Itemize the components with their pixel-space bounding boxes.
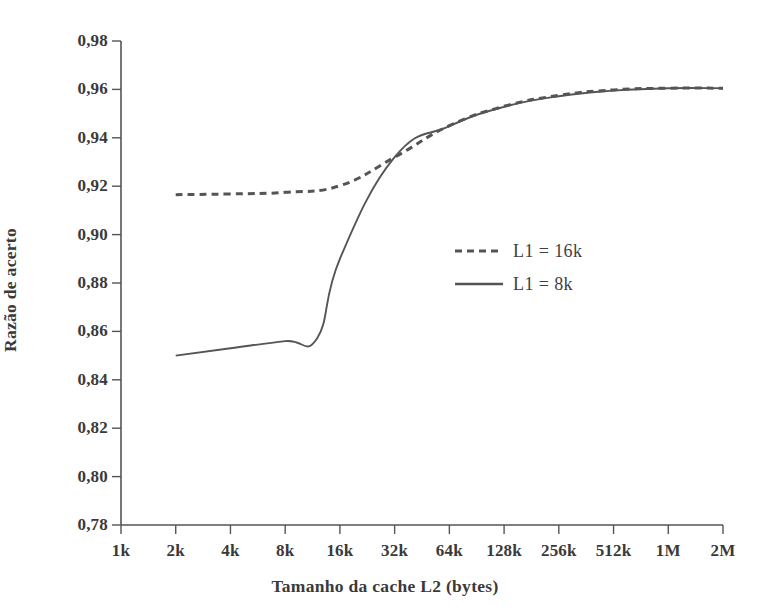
y-axis-tick-label: 0,90 — [40, 225, 108, 245]
y-axis-tick-label: 0,98 — [40, 31, 108, 51]
x-axis-tick-label: 1k — [112, 541, 130, 561]
x-axis-tick-label: 32k — [381, 541, 408, 561]
axis-lines — [121, 41, 723, 525]
y-axis-tick-label: 0,80 — [40, 467, 108, 487]
y-axis-tick-label: 0,82 — [40, 418, 108, 438]
x-axis-tick-label: 256k — [541, 541, 577, 561]
x-axis-tick-label: 512k — [596, 541, 632, 561]
y-axis-tick-label: 0,88 — [40, 273, 108, 293]
x-axis-tick-label: 2M — [711, 541, 736, 561]
chart-figure: 0,780,800,820,840,860,880,900,920,940,96… — [0, 0, 770, 616]
y-axis-ticks — [112, 41, 121, 525]
series-line-1 — [176, 88, 723, 195]
legend-item-label: L1 = 16k — [513, 241, 582, 262]
plot-area — [0, 0, 770, 616]
legend-item-label: L1 = 8k — [513, 274, 573, 295]
x-axis-tick-label: 8k — [276, 541, 294, 561]
y-axis-title: Razão de acerto — [0, 228, 21, 352]
x-axis-tick-label: 1M — [656, 541, 681, 561]
x-axis-tick-label: 16k — [326, 541, 353, 561]
x-axis-tick-label: 128k — [486, 541, 522, 561]
y-axis-tick-label: 0,78 — [40, 515, 108, 535]
data-series-group — [176, 88, 723, 356]
y-axis-tick-label: 0,86 — [40, 321, 108, 341]
y-axis-tick-label: 0,84 — [40, 370, 108, 390]
y-axis-tick-label: 0,94 — [40, 128, 108, 148]
x-axis-tick-label: 64k — [436, 541, 463, 561]
legend-swatch-group — [455, 251, 503, 284]
y-axis-tick-label: 0,96 — [40, 79, 108, 99]
x-axis-title: Tamanho da cache L2 (bytes) — [271, 576, 498, 597]
y-axis-tick-label: 0,92 — [40, 176, 108, 196]
x-axis-tick-label: 4k — [221, 541, 239, 561]
x-axis-tick-label: 2k — [167, 541, 185, 561]
series-line-2 — [176, 88, 723, 356]
x-axis-ticks — [121, 525, 723, 534]
